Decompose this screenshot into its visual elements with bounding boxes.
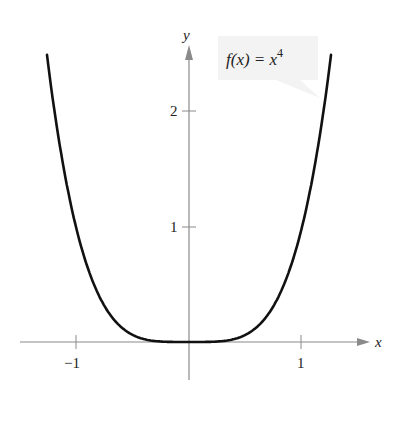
y-axis-label: y bbox=[181, 27, 190, 43]
function-label: f(x) = x4 bbox=[226, 46, 283, 69]
y-axis-arrow-icon bbox=[185, 45, 193, 60]
x-axis-arrow-icon bbox=[357, 338, 370, 346]
x-axis-label: x bbox=[374, 334, 382, 350]
y-tick-label-2: 2 bbox=[170, 103, 178, 119]
y-axis bbox=[182, 45, 196, 380]
x-tick-label-neg1: −1 bbox=[64, 355, 80, 371]
x-tick-label-1: 1 bbox=[297, 355, 305, 371]
chart: x y −1 1 1 2 f(x) = x4 bbox=[0, 0, 405, 428]
y-tick-label-1: 1 bbox=[170, 219, 178, 235]
